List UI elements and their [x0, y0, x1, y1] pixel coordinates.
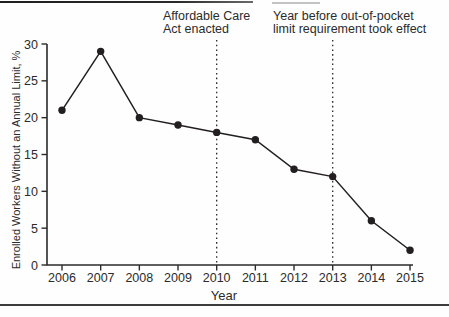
x-tick-label: 2010 — [203, 271, 231, 285]
y-tick-label: 15 — [24, 148, 38, 162]
y-tick-label: 0 — [31, 259, 38, 273]
x-tick-label: 2013 — [319, 271, 347, 285]
x-tick-label: 2012 — [280, 271, 308, 285]
annotation-aca-enacted: Affordable Care Act enacted — [163, 10, 250, 36]
x-tick-label: 2014 — [357, 271, 385, 285]
figure-annual-limit-line-chart: Affordable Care Act enacted Year before … — [0, 0, 449, 317]
y-tick-label: 30 — [24, 38, 38, 52]
data-point — [97, 48, 104, 55]
y-tick-label: 20 — [24, 111, 38, 125]
x-tick-label: 2008 — [125, 271, 153, 285]
data-point — [329, 173, 336, 180]
axes — [47, 44, 413, 265]
x-tick-label: 2015 — [396, 271, 424, 285]
x-tick-label: 2011 — [242, 271, 269, 285]
data-point — [58, 107, 65, 114]
data-point — [368, 217, 375, 224]
y-tick-label: 25 — [24, 74, 38, 88]
x-tick-label: 2006 — [48, 271, 76, 285]
data-point — [174, 121, 181, 128]
y-tick-label: 10 — [24, 185, 38, 199]
line-chart-canvas: 0510152025302006200720082009201020112012… — [0, 0, 449, 317]
data-point — [290, 166, 297, 173]
data-line — [62, 51, 410, 250]
x-tick-label: 2007 — [87, 271, 115, 285]
annotation-out-of-pocket-limit: Year before out-of-pocket limit requirem… — [273, 10, 426, 36]
y-axis-title: Enrolled Workers Without an Annual Limit… — [10, 51, 22, 270]
x-tick-label: 2009 — [164, 271, 192, 285]
x-axis-title: Year — [211, 288, 237, 303]
data-point — [136, 114, 143, 121]
data-point — [252, 136, 259, 143]
data-point — [213, 129, 220, 136]
y-tick-label: 5 — [31, 222, 38, 236]
data-point — [406, 247, 413, 254]
